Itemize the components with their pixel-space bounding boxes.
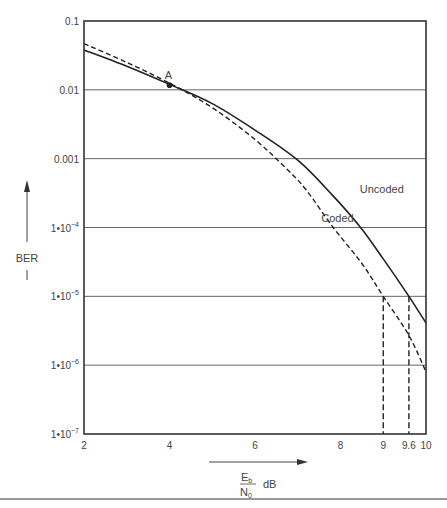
- data-series: [84, 44, 426, 372]
- gridlines: [84, 90, 426, 365]
- y-tick-label: 1•10−6: [51, 358, 79, 371]
- y-tick-label: 1•10−5: [51, 289, 79, 302]
- y-tick-label: 0.1: [65, 16, 79, 27]
- x-axis-label-group: Eb N0 dB: [209, 459, 308, 499]
- x-tick-label: 9.6: [402, 440, 416, 451]
- x-arrow-head-icon: [297, 459, 308, 465]
- series-label-coded: Coded: [321, 212, 353, 224]
- y-tick-label: 1•10−4: [51, 221, 79, 234]
- y-tick-label: 1•10−7: [51, 427, 79, 440]
- annotations: AUncodedCoded: [165, 69, 409, 434]
- y-tick-label: 0.001: [54, 154, 79, 165]
- y-axis-label: BER: [16, 252, 39, 264]
- xlabel-unit: dB: [263, 478, 276, 490]
- xlabel-denominator: N0: [240, 486, 252, 499]
- ber-chart: AUncodedCoded 0.10.010.0011•10−41•10−51•…: [0, 0, 447, 508]
- y-axis-label-group: BER: [16, 180, 39, 280]
- y-axis-ticks: 0.10.010.0011•10−41•10−51•10−61•10−7: [51, 16, 80, 440]
- point-a-label: A: [165, 69, 173, 81]
- x-tick-label: 9: [380, 440, 386, 451]
- x-axis-ticks: 246899.610: [81, 440, 432, 451]
- series-coded: [84, 44, 426, 372]
- x-tick-label: 8: [338, 440, 344, 451]
- series-label-uncoded: Uncoded: [360, 183, 404, 195]
- x-tick-label: 10: [420, 440, 432, 451]
- xlabel-numerator: Eb: [241, 471, 252, 484]
- y-arrow-head-icon: [24, 180, 30, 192]
- point-a-marker: [167, 82, 173, 88]
- x-tick-label: 4: [167, 440, 173, 451]
- x-tick-label: 2: [81, 440, 87, 451]
- y-tick-label: 0.01: [60, 85, 80, 96]
- x-tick-label: 6: [252, 440, 258, 451]
